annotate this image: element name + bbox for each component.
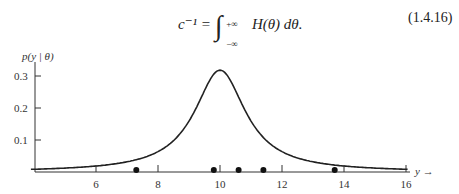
svg-text:0.3: 0.3	[14, 70, 28, 82]
x-axis-label: y →	[414, 165, 434, 177]
observation-dot	[133, 167, 139, 173]
chart: 0.10.20.3 6810121416 p(y | θ) y →	[0, 0, 459, 194]
y-axis-label: p(y | θ)	[21, 50, 54, 63]
x-ticks: 6810121416	[93, 165, 412, 190]
y-ticks: 0.10.20.3	[14, 70, 41, 146]
svg-text:12: 12	[277, 178, 288, 190]
svg-text:10: 10	[215, 178, 227, 190]
observation-dot	[236, 167, 242, 173]
svg-text:16: 16	[401, 178, 413, 190]
svg-text:8: 8	[155, 178, 161, 190]
svg-text:6: 6	[93, 178, 99, 190]
density-curve	[31, 70, 408, 169]
observation-dot	[332, 167, 338, 173]
svg-text:0.1: 0.1	[14, 134, 28, 146]
svg-text:0.2: 0.2	[14, 102, 28, 114]
observation-dot	[260, 167, 266, 173]
observation-dot	[211, 167, 217, 173]
svg-text:14: 14	[339, 178, 351, 190]
